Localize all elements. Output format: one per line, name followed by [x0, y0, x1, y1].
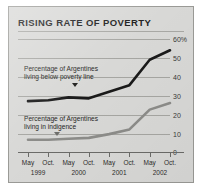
x-axis-tick — [170, 153, 171, 157]
annotation-poverty-line1: Percentage of Argentines — [24, 65, 98, 73]
x-axis-year-label: 2002 — [153, 169, 167, 176]
x-axis-tick — [150, 153, 151, 157]
chart-figure: RISING RATE OF POVERTY 60% 50 40 30 20 1… — [8, 6, 194, 183]
x-axis-tick-label: May — [144, 159, 156, 166]
x-axis-tick — [89, 153, 90, 157]
x-axis-tick-label: Oct. — [42, 159, 54, 166]
annotation-indigence-line2: living in indigence — [24, 123, 98, 131]
annotation-indigence-line1: Percentage of Argentines — [24, 115, 98, 123]
x-axis-tick-label: May — [103, 159, 115, 166]
annotation-poverty-pointer-icon — [72, 83, 78, 87]
annotation-indigence: Percentage of Argentines living in indig… — [24, 115, 98, 132]
x-axis-tick — [129, 153, 130, 157]
x-axis-tick — [69, 153, 70, 157]
annotation-indigence-pointer-icon — [54, 132, 60, 136]
x-axis-line — [18, 152, 184, 153]
x-axis-tick — [109, 153, 110, 157]
annotation-poverty: Percentage of Argentines living below po… — [24, 65, 98, 82]
x-axis-tick-label: May — [22, 159, 34, 166]
x-axis-tick-label: May — [62, 159, 74, 166]
x-axis-tick-label: Oct. — [123, 159, 135, 166]
x-axis-year-label: 2001 — [112, 169, 126, 176]
x-axis-tick — [48, 153, 49, 157]
x-axis-year-label: 1999 — [31, 169, 45, 176]
x-axis-tick — [28, 153, 29, 157]
x-axis-tick-label: Oct. — [164, 159, 176, 166]
x-axis-year-label: 2000 — [71, 169, 85, 176]
annotation-poverty-line2: living below poverty line — [24, 73, 98, 81]
series-layer — [8, 6, 194, 183]
x-axis-tick-label: Oct. — [83, 159, 95, 166]
